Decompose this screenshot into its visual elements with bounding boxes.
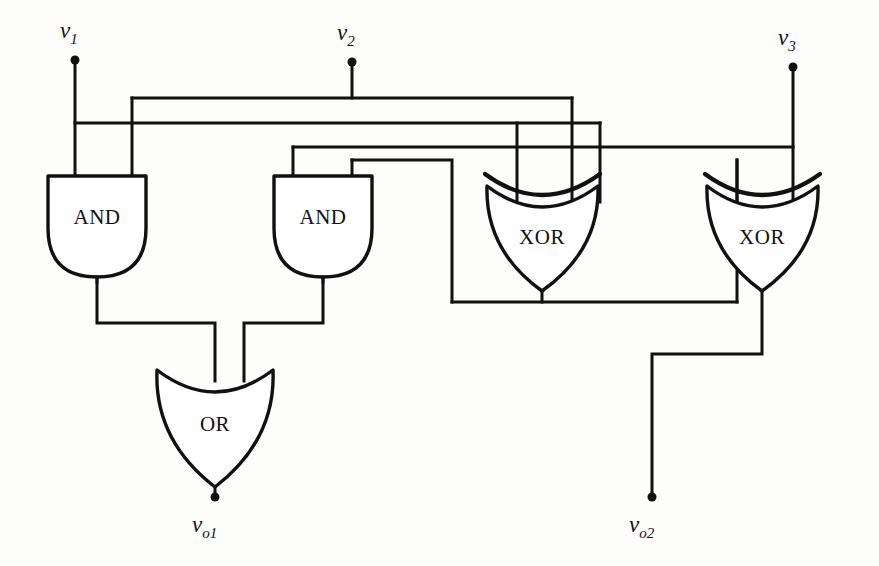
gate-xor2[interactable]: XOR: [705, 174, 820, 291]
gate-and1-label: AND: [74, 205, 121, 229]
gate-and2-label: AND: [300, 205, 347, 229]
circuit-canvas: AND AND XOR XOR: [0, 0, 879, 566]
gate-or1-label: OR: [200, 412, 230, 436]
wire-and1-to-or1: [97, 277, 215, 381]
xor-outer-arc: [705, 174, 820, 195]
gate-and1[interactable]: AND: [48, 176, 146, 282]
terminal-label-vo1: vo1: [192, 512, 217, 542]
terminal-label-v2-base: v: [337, 20, 347, 45]
terminal-label-v3-base: v: [778, 25, 788, 50]
terminal-label-v1-sub: 1: [70, 31, 78, 47]
gate-and2[interactable]: AND: [274, 176, 372, 282]
terminal-dot-v1[interactable]: [71, 56, 80, 65]
gate-layer: AND AND XOR XOR: [48, 174, 820, 487]
gate-xor1-label: XOR: [519, 225, 565, 249]
terminal-label-vo2-sub: o2: [639, 525, 654, 541]
terminal-dot-vo2[interactable]: [648, 493, 657, 502]
terminal-label-vo2: vo2: [629, 512, 654, 542]
terminal-label-vo2-base: v: [629, 512, 639, 537]
gate-xor2-label: XOR: [739, 225, 785, 249]
terminal-label-v2-sub: 2: [347, 33, 355, 49]
terminal-label-v2: v2: [337, 20, 355, 50]
terminal-label-v3: v3: [778, 25, 796, 55]
terminal-dot-vo1[interactable]: [211, 493, 220, 502]
wire-xor2-to-vo2: [652, 291, 762, 497]
gate-xor1[interactable]: XOR: [485, 174, 600, 291]
terminal-label-v1: v1: [60, 18, 78, 48]
terminal-dot-v2[interactable]: [348, 58, 357, 67]
terminal-label-vo1-base: v: [192, 512, 202, 537]
xor-outer-arc: [485, 174, 600, 195]
wire-and2-to-or1: [244, 277, 323, 381]
terminal-label-vo1-sub: o1: [202, 525, 217, 541]
terminal-label-v1-base: v: [60, 18, 70, 43]
logic-circuit-diagram: AND AND XOR XOR: [0, 0, 879, 566]
terminal-dot-v3[interactable]: [789, 63, 798, 72]
terminal-label-v3-sub: 3: [788, 38, 796, 54]
gate-or1[interactable]: OR: [157, 370, 273, 487]
